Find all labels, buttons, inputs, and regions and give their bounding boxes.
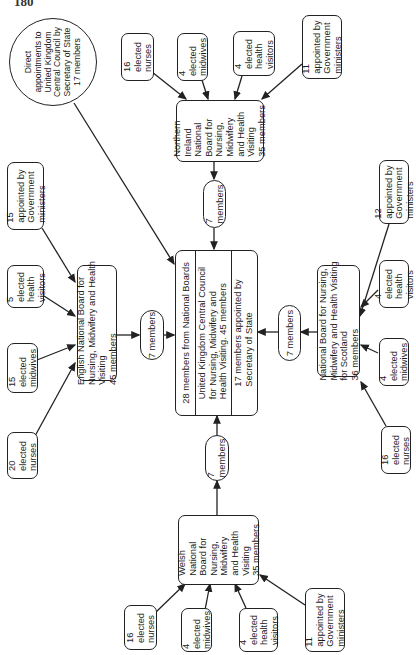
ni-input-health-visitors: 4 elected health visitors [233,31,275,76]
sco-delegates-label: 7 members [284,310,295,357]
eng-input-government-label: 15 appointed by Government ministers [4,169,46,222]
eng-input-midwives: 15 elected midwives [7,343,38,393]
eng-board-label: English National Board for Nursing, Midw… [76,261,118,385]
wal-input-government: 11 appointed by Government ministers [305,588,345,652]
sco-delegates-pill: 7 members [278,305,301,361]
sco-board-label: National Board for Nursing, Midwifery an… [317,261,359,380]
ukcc-section-title: United Kingdom Central Council for Nursi… [195,251,231,415]
eng-board: English National Board for Nursing, Midw… [77,265,117,381]
ni-delegates-pill: 7 members [203,180,226,228]
ukcc-section-secretary: 17 members appointed by Secretary of Sta… [231,251,257,415]
eng-input-midwives-label: 15 elected midwives [7,349,39,387]
eng-delegates-label: 7 members [147,312,158,359]
sco-board: National Board for Nursing, Midwifery an… [317,265,360,377]
wal-input-nurses: 16 elected nurses [124,605,157,650]
wal-input-midwives: 4 elected midwives [181,608,212,652]
ni-board: Northern Ireland National Board for Nurs… [176,100,264,162]
wal-input-health-visitors-label: 4 elected health visitors [237,615,279,645]
wal-input-health-visitors: 4 elected health visitors [239,608,278,652]
ukcc-secretary-label: 17 members appointed by Secretary of Sta… [233,279,254,387]
sco-input-nurses: 16 elected nurses [381,426,411,474]
wal-delegates-pill: 7 members [205,435,229,481]
ni-input-midwives-label: 4 elected midwives [177,38,209,76]
eng-input-health-visitors-label: 5 elected health visitors [4,272,46,302]
ni-delegates-label: 7 members [204,185,225,224]
ukcc-section-boards: 28 members from National Boards [176,251,195,415]
sco-input-nurses-label: 16 elected nurses [380,435,412,465]
eng-input-nurses: 20 elected nurses [7,432,38,479]
direct-appointments-circle: Direct appointments to United Kingdom Ce… [9,18,97,106]
ukcc-title-label: United Kingdom Central Council for Nursi… [197,267,229,399]
ni-input-nurses: 16 elected nurses [121,33,154,81]
wal-input-midwives-label: 4 elected midwives [181,611,213,649]
wal-input-government-label: 11 appointed by Government ministers [304,593,346,646]
wal-board: Welsh National Board for Nursing, Midwif… [178,515,259,585]
ni-input-health-visitors-label: 4 elected health visitors [233,39,275,69]
direct-appointments-label: Direct appointments to United Kingdom Ce… [24,27,83,97]
sco-input-government: 12 appointed by Government ministers [379,160,409,224]
eng-input-health-visitors: 5 elected health visitors [7,265,44,308]
page-number: 180 [14,0,34,10]
ni-input-government-label: 11 appointed by Government ministers [301,20,343,73]
wal-board-label: Welsh National Board for Nursing, Midwif… [176,524,261,576]
ni-board-label: Northern Ireland National Board for Nurs… [172,105,267,157]
eng-delegates-pill: 7 members [140,310,164,360]
sco-input-government-label: 12 appointed by Government ministers [373,165,415,218]
eng-input-nurses-label: 20 elected nurses [7,441,39,471]
sco-input-midwives: 4 elected midwives [379,338,409,386]
eng-input-government: 15 appointed by Government ministers [7,162,44,230]
ni-input-midwives: 4 elected midwives [177,33,208,81]
wal-delegates-label: 7 members [206,439,227,478]
wal-input-nurses-label: 16 elected nurses [125,613,157,643]
sco-input-health-visitors-label: 4 elected health visitors [373,269,415,299]
ni-input-government: 11 appointed by Government ministers [302,15,342,79]
sco-input-midwives-label: 4 elected midwives [378,343,410,381]
ni-input-nurses-label: 16 elected nurses [122,42,154,72]
ukcc-from-boards-label: 28 members from National Boards [180,262,191,404]
sco-input-health-visitors: 4 elected health visitors [379,260,409,308]
ukcc-central-box: 28 members from National Boards United K… [175,250,258,416]
